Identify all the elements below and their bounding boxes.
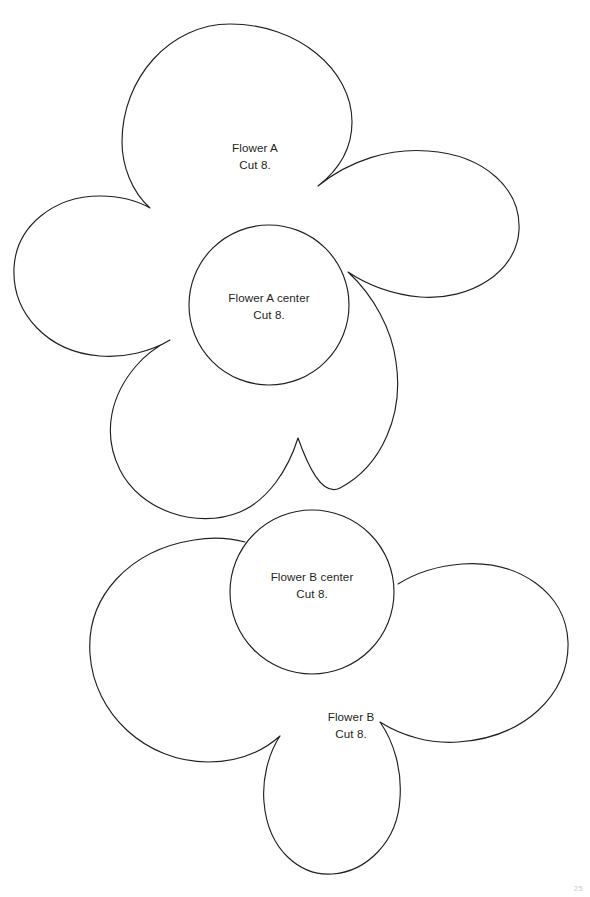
flower-b-center-label-line1: Flower B center <box>238 569 386 586</box>
flower-a-label: Flower A Cut 8. <box>181 140 329 173</box>
flower-a-label-line2: Cut 8. <box>181 157 329 174</box>
flower-b-center-label: Flower B center Cut 8. <box>238 569 386 602</box>
flower-a-center-label: Flower A center Cut 8. <box>195 290 343 323</box>
flower-b-label-line2: Cut 8. <box>277 726 425 743</box>
flower-b-label-line1: Flower B <box>277 709 425 726</box>
page-number: 25 <box>574 884 583 893</box>
flower-a-center-label-line1: Flower A center <box>195 290 343 307</box>
pattern-page: Flower A Cut 8. Flower A center Cut 8. F… <box>0 0 590 897</box>
pattern-artwork <box>0 0 590 897</box>
flower-a-label-line1: Flower A <box>181 140 329 157</box>
flower-b-center-label-line2: Cut 8. <box>238 586 386 603</box>
flower-b-label: Flower B Cut 8. <box>277 709 425 742</box>
flower-a-center-label-line2: Cut 8. <box>195 307 343 324</box>
